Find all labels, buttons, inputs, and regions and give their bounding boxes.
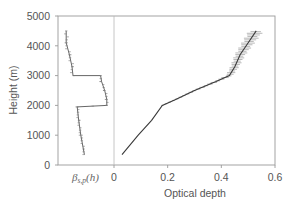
- y-tick-label: 4000: [27, 40, 51, 52]
- beta-panel-label: βs,p(h): [71, 171, 99, 185]
- chart: 010002000300040005000 00.20.40.6 Height …: [0, 0, 293, 208]
- beta-profile-series: [64, 31, 109, 155]
- x-tick-label: 0.6: [268, 171, 283, 183]
- y-axis-label: Height (m): [7, 65, 19, 114]
- x-axis-label: Optical depth: [164, 187, 226, 199]
- y-tick-label: 3000: [27, 69, 51, 81]
- beta-profile-line: [66, 31, 107, 155]
- y-axis: 010002000300040005000: [27, 10, 58, 171]
- y-tick-label: 0: [44, 159, 50, 171]
- x-tick-label: 0: [111, 171, 117, 183]
- optical-depth-line: [122, 31, 256, 155]
- optical-depth-series: [122, 31, 262, 155]
- y-tick-label: 5000: [27, 10, 51, 22]
- plot-frame: [58, 16, 275, 165]
- x-tick-label: 0.2: [160, 171, 175, 183]
- y-tick-label: 1000: [27, 129, 51, 141]
- x-axis: 00.20.40.6: [111, 165, 282, 183]
- x-tick-label: 0.4: [214, 171, 229, 183]
- y-tick-label: 2000: [27, 99, 51, 111]
